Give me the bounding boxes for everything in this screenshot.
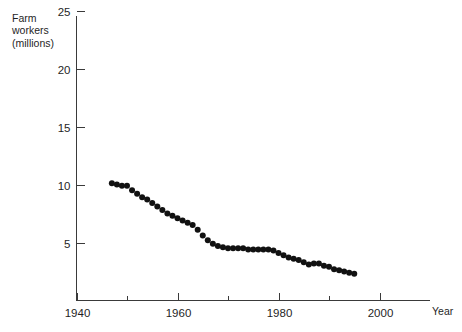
data-point [159, 207, 165, 213]
y-axis-ticks: 510152025 [58, 6, 85, 250]
data-point [129, 187, 135, 193]
data-point [114, 182, 120, 188]
y-tick-label: 5 [64, 238, 70, 250]
data-point [205, 237, 211, 243]
data-point [134, 191, 140, 197]
data-point [200, 233, 206, 239]
data-point [331, 266, 337, 272]
data-point [124, 183, 130, 189]
data-point [109, 180, 115, 186]
axis-lines [77, 16, 431, 301]
plot-area: 510152025 1940196019802000 [0, 0, 462, 332]
data-point [286, 255, 292, 261]
data-point [195, 227, 201, 233]
x-tick-label: 2000 [368, 307, 394, 319]
data-point [190, 222, 196, 228]
data-point-group [109, 180, 357, 276]
data-point [240, 245, 246, 251]
x-tick-label: 1940 [65, 307, 91, 319]
data-point [220, 244, 226, 250]
data-point [215, 243, 221, 249]
data-point [291, 256, 297, 262]
data-point [351, 271, 357, 277]
data-point [154, 204, 160, 210]
data-point [341, 269, 347, 275]
data-point [336, 267, 342, 273]
x-axis-ticks: 1940196019802000 [65, 293, 394, 319]
x-tick-label: 1960 [166, 307, 192, 319]
x-tick-label: 1980 [267, 307, 293, 319]
y-tick-label: 10 [58, 180, 71, 192]
data-point [346, 270, 352, 276]
data-point [144, 197, 150, 203]
data-point [321, 263, 327, 269]
data-point [306, 262, 312, 268]
farm-workers-chart-figure: Farm workers (millions) Year 510152025 1… [0, 0, 462, 332]
y-tick-label: 15 [58, 122, 71, 134]
y-tick-label: 25 [58, 6, 71, 18]
y-tick-label: 20 [58, 64, 71, 76]
data-point [149, 200, 155, 206]
data-point [265, 246, 271, 252]
